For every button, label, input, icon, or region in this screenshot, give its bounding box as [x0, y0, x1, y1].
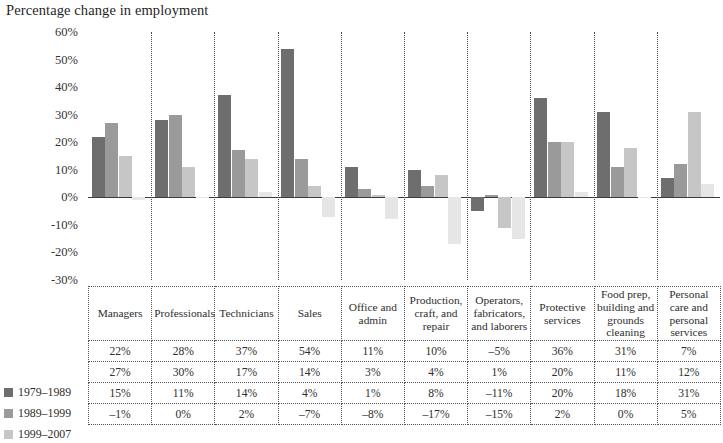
legend: 1979–19891989–19991999–20072007–2009 — [2, 334, 88, 443]
bar — [259, 192, 272, 198]
bar — [119, 156, 132, 197]
table-body: 22%28%37%54%11%10%–5%36%31%7%27%30%17%14… — [89, 341, 721, 425]
bar-group — [151, 32, 214, 280]
y-tick-label: 0% — [61, 190, 78, 205]
table-column-header: Sales — [278, 287, 341, 341]
bar-group — [341, 32, 404, 280]
table-cell: 12% — [657, 362, 720, 383]
data-table: ManagersProfessionalsTechniciansSalesOff… — [88, 286, 721, 425]
table-cell: 28% — [152, 341, 215, 362]
table-cell: 17% — [215, 362, 278, 383]
bar — [435, 175, 448, 197]
table-cell: 20% — [531, 362, 594, 383]
table-cell: 15% — [89, 383, 152, 404]
bar — [512, 197, 525, 238]
bar — [498, 197, 511, 227]
table-column-header: Protective services — [531, 287, 594, 341]
table-cell: 18% — [594, 383, 657, 404]
bar-group — [278, 32, 341, 280]
table-cell: –5% — [468, 341, 531, 362]
table-cell: 31% — [594, 341, 657, 362]
table-column-header: Food prep, building and grounds cleaning — [594, 287, 657, 341]
bar — [701, 184, 714, 198]
y-tick-label: 60% — [55, 25, 78, 40]
table-cell: 14% — [278, 362, 341, 383]
chart-page: Percentage change in employment 60%50%40… — [0, 0, 723, 443]
bar — [674, 164, 687, 197]
table-head: ManagersProfessionalsTechniciansSalesOff… — [89, 287, 721, 341]
bar — [448, 197, 461, 244]
table-cell: 4% — [278, 383, 341, 404]
table-cell: 11% — [594, 362, 657, 383]
table-cell: 4% — [404, 362, 467, 383]
bar — [295, 159, 308, 198]
legend-spacer — [2, 334, 88, 382]
legend-item-label: 1989–1999 — [18, 406, 71, 421]
bar — [408, 170, 421, 198]
bar — [169, 115, 182, 198]
bar — [597, 112, 610, 197]
y-tick-label: -10% — [51, 217, 78, 232]
y-tick-label: 50% — [55, 52, 78, 67]
table-column-header: Production, craft, and repair — [404, 287, 467, 341]
table-cell: 27% — [89, 362, 152, 383]
legend-item-label: 1979–1989 — [18, 385, 71, 400]
bar — [372, 195, 385, 198]
table-row: 27%30%17%14%3%4%1%20%11%12% — [89, 362, 721, 383]
table-cell: 0% — [152, 404, 215, 425]
bar — [421, 186, 434, 197]
bar-group — [404, 32, 467, 280]
table-cell: 5% — [657, 404, 720, 425]
table-cell: 30% — [152, 362, 215, 383]
table-cell: –8% — [341, 404, 404, 425]
table-cell: 11% — [152, 383, 215, 404]
legend-item-label: 1999–2007 — [18, 427, 71, 442]
bar — [688, 112, 701, 197]
table-cell: –1% — [89, 404, 152, 425]
table-cell: 22% — [89, 341, 152, 362]
table-cell: 7% — [657, 341, 720, 362]
bar — [308, 186, 321, 197]
bar — [232, 150, 245, 197]
bar — [561, 142, 574, 197]
table-column-header: Professionals — [152, 287, 215, 341]
table-cell: 37% — [215, 341, 278, 362]
y-axis: 60%50%40%30%20%10%0%-10%-20%-30% — [0, 32, 84, 280]
table-column-header: Office and admin — [341, 287, 404, 341]
table-column-header: Technicians — [215, 287, 278, 341]
table-column-header: Operators, fabricators, and laborers — [468, 287, 531, 341]
y-tick-label: 10% — [55, 162, 78, 177]
table-cell: 10% — [404, 341, 467, 362]
bar — [661, 178, 674, 197]
table-cell: –11% — [468, 383, 531, 404]
table-column-header: Personal care and personal services — [657, 287, 720, 341]
table-cell: 8% — [404, 383, 467, 404]
bar — [624, 148, 637, 198]
bar — [281, 49, 294, 198]
bar — [182, 167, 195, 197]
table-cell: 1% — [468, 362, 531, 383]
legend-item: 1989–1999 — [2, 403, 88, 424]
bar — [638, 197, 651, 198]
table-cell: –17% — [404, 404, 467, 425]
bar — [132, 197, 145, 200]
table-row: 22%28%37%54%11%10%–5%36%31%7% — [89, 341, 721, 362]
y-tick-label: 20% — [55, 135, 78, 150]
bar — [218, 95, 231, 197]
y-tick-label: 40% — [55, 80, 78, 95]
bar — [245, 159, 258, 198]
bar — [534, 98, 547, 197]
bar-group — [467, 32, 530, 280]
bar — [196, 197, 209, 198]
bar — [322, 197, 335, 216]
table-cell: –7% — [278, 404, 341, 425]
bar — [548, 142, 561, 197]
bar — [345, 167, 358, 197]
legend-swatch-icon — [4, 409, 13, 418]
table-header-row: ManagersProfessionalsTechniciansSalesOff… — [89, 287, 721, 341]
table-cell: 0% — [594, 404, 657, 425]
table-cell: 1% — [341, 383, 404, 404]
table-cell: 2% — [215, 404, 278, 425]
bar-group — [530, 32, 593, 280]
data-table-wrap: ManagersProfessionalsTechniciansSalesOff… — [88, 286, 720, 438]
